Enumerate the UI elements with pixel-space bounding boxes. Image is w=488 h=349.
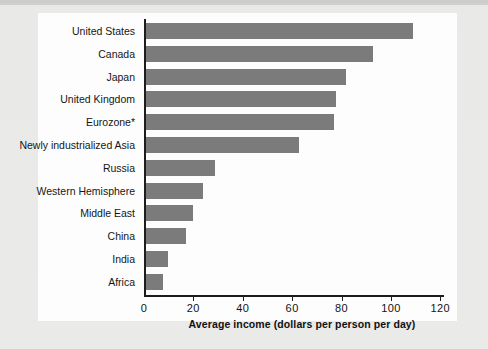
x-axis-tick-label: 80 (335, 302, 348, 314)
category-label: Newly industrialized Asia (0, 134, 140, 157)
bar (146, 160, 215, 176)
bar (146, 205, 193, 221)
bar-row (146, 66, 460, 89)
x-axis-tick-label: 20 (187, 302, 200, 314)
bar (146, 46, 373, 62)
bar-row (146, 88, 460, 111)
x-axis-tick (292, 296, 293, 301)
category-label: Middle East (0, 202, 140, 225)
bar-row (146, 20, 460, 43)
bar-row (146, 225, 460, 248)
category-label: United Kingdom (0, 88, 140, 111)
bar (146, 183, 203, 199)
category-label: United States (0, 20, 140, 43)
bar-row (146, 202, 460, 225)
category-label: China (0, 225, 140, 248)
category-label: Africa (0, 271, 140, 294)
bar (146, 137, 299, 153)
bar-series (146, 20, 460, 294)
category-label: Japan (0, 66, 140, 89)
x-axis-tick (193, 296, 194, 301)
bar-row (146, 134, 460, 157)
x-axis-tick (440, 296, 441, 301)
category-label: Russia (0, 157, 140, 180)
x-axis-line (144, 295, 444, 297)
bar-row (146, 157, 460, 180)
bar-row (146, 180, 460, 203)
category-axis-labels: United StatesCanadaJapanUnited KingdomEu… (0, 20, 140, 294)
bar (146, 251, 168, 267)
bar (146, 23, 413, 39)
bar-row (146, 248, 460, 271)
category-label: Canada (0, 43, 140, 66)
x-axis-tick (243, 296, 244, 301)
bar (146, 274, 163, 290)
x-axis-tick-label: 40 (236, 302, 249, 314)
category-label: Western Hemisphere (0, 180, 140, 203)
x-axis-tick-label: 100 (381, 302, 401, 314)
bar (146, 114, 334, 130)
bar (146, 228, 186, 244)
category-label: Eurozone* (0, 111, 140, 134)
category-label: India (0, 248, 140, 271)
x-axis-tick-label: 120 (431, 302, 451, 314)
x-axis-tick-label: 0 (141, 302, 148, 314)
bar-row (146, 111, 460, 134)
bar-row (146, 271, 460, 294)
x-axis-tick (342, 296, 343, 301)
bar (146, 91, 336, 107)
bar-row (146, 43, 460, 66)
bar (146, 69, 346, 85)
x-axis-tick-label: 60 (286, 302, 299, 314)
bar-chart-figure: United StatesCanadaJapanUnited KingdomEu… (0, 0, 488, 349)
x-axis-title: Average income (dollars per person per d… (144, 318, 460, 330)
x-axis-tick (391, 296, 392, 301)
